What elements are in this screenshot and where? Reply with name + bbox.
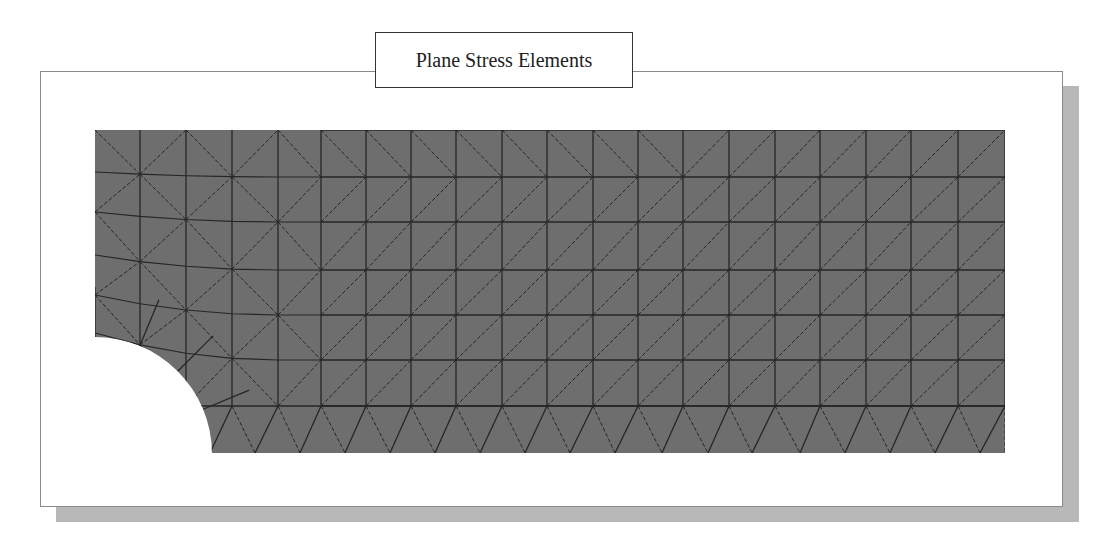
diagram-title: Plane Stress Elements (416, 49, 593, 72)
title-box: Plane Stress Elements (375, 32, 633, 88)
